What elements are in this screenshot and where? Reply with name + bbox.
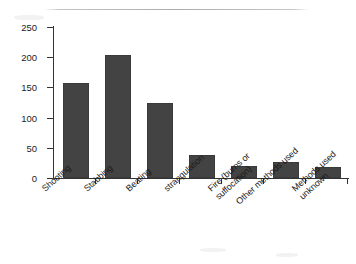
y-tick-label-0: 0	[32, 173, 37, 184]
bar-beating	[147, 103, 173, 179]
scan-smudge	[276, 253, 298, 257]
y-tick-label-200: 200	[21, 52, 37, 63]
y-tick-label-100: 100	[21, 112, 37, 123]
y-tick-label-50: 50	[26, 142, 37, 153]
y-tick-label-250: 250	[21, 22, 37, 33]
bar-chart-figure: 250 200 150 100 50 0 Shooting Stabbing B…	[0, 0, 356, 264]
bar-stabbing	[105, 55, 131, 178]
x-tick-mark	[347, 179, 348, 184]
y-axis-tick-labels: 250 200 150 100 50 0	[0, 0, 45, 264]
scan-smudge	[200, 248, 226, 252]
y-tick-label-150: 150	[21, 82, 37, 93]
scan-artifact-line	[44, 9, 309, 10]
